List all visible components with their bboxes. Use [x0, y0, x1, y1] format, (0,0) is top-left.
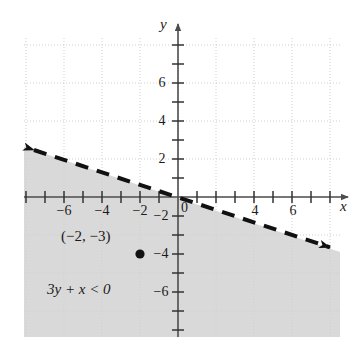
- x-tick-label-neg6: −6: [54, 203, 74, 219]
- x-tick-label-6: 6: [286, 203, 300, 219]
- inequality-graph-figure: y x 0 −6 −4 −2 4 6 6 4 2 −2 −4 −6 (−2, −…: [0, 0, 361, 353]
- coordinate-plane: [0, 0, 361, 353]
- origin-label: 0: [181, 200, 188, 216]
- y-tick-label-2: 2: [155, 151, 169, 167]
- data-point-marker: [135, 249, 144, 258]
- y-tick-label-neg4: −4: [150, 246, 172, 262]
- x-tick-label-neg4: −4: [92, 203, 112, 219]
- point-coordinate-label: (−2, −3): [61, 228, 110, 245]
- y-tick-label-neg6: −6: [150, 284, 172, 300]
- x-tick-label-neg2: −2: [130, 203, 150, 219]
- y-tick-label-4: 4: [155, 113, 169, 129]
- inequality-label: 3y + x < 0: [47, 281, 111, 298]
- y-tick-label-6: 6: [155, 75, 169, 91]
- x-tick-label-4: 4: [248, 203, 262, 219]
- y-tick-label-neg2: −2: [150, 208, 172, 224]
- y-axis-label: y: [160, 16, 167, 33]
- x-axis-label: x: [340, 198, 347, 215]
